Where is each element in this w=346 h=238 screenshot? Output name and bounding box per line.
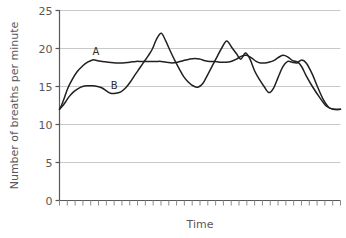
series-line-A (60, 55, 341, 109)
series-line-B (60, 33, 341, 109)
y-tick-label-20: 20 (39, 43, 53, 56)
y-tick-label-0: 0 (46, 195, 53, 208)
y-tick-label-15: 15 (39, 81, 53, 94)
y-tick-label-10: 10 (39, 119, 53, 132)
y-axis-title: Number of breaths per minute (8, 21, 21, 189)
series-label-B: B (111, 80, 118, 91)
y-tick-label-25: 25 (39, 5, 53, 18)
y-tick-label-5: 5 (46, 157, 53, 170)
chart-canvas: 0510152025ABTimeNumber of breaths per mi… (0, 0, 346, 238)
x-axis-title: Time (186, 218, 214, 231)
breathing-rate-line-chart: 0510152025ABTimeNumber of breaths per mi… (0, 0, 346, 238)
series-label-A: A (93, 46, 100, 57)
